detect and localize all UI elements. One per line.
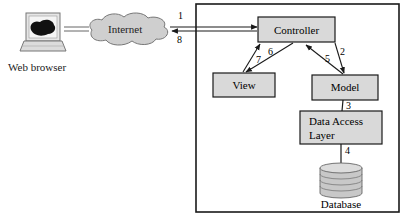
edge-label-4: 4 (345, 145, 350, 156)
edge-label-1: 1 (178, 10, 183, 21)
database-label: Database (321, 198, 361, 210)
edge-label-5: 5 (325, 53, 330, 64)
link-3-model-to-dal (342, 100, 343, 111)
web-browser-icon (20, 13, 66, 51)
edge-label-2: 2 (340, 46, 345, 57)
edge-label-6: 6 (268, 46, 273, 57)
web-browser-label: Web browser (8, 61, 66, 73)
dal-label-line2: Layer (309, 129, 335, 141)
model-label: Model (331, 81, 360, 93)
edge-label-8: 8 (177, 34, 182, 45)
edge-label-3: 3 (346, 100, 351, 111)
mvc-diagram: Web browser Internet 1 8 Controller View… (0, 0, 403, 217)
database-icon (320, 163, 362, 198)
controller-label: Controller (274, 24, 320, 36)
view-label: View (232, 79, 255, 91)
dal-label-line1: Data Access (309, 115, 363, 127)
edge-label-7: 7 (256, 54, 261, 65)
internet-label: Internet (108, 23, 142, 35)
